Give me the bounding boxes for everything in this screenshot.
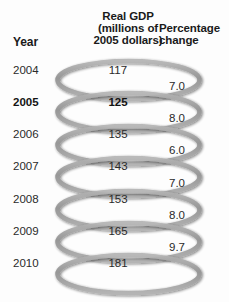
cell-percentage-change: 7.0	[155, 80, 199, 92]
cell-real-gdp: 125	[86, 96, 150, 108]
cell-real-gdp: 117	[86, 64, 150, 76]
cell-real-gdp: 165	[86, 225, 150, 237]
cell-year: 2007	[13, 160, 59, 172]
cell-percentage-change: 6.0	[155, 144, 199, 156]
cell-year: 2006	[13, 128, 59, 140]
cell-real-gdp: 181	[86, 257, 150, 269]
cell-percentage-change: 8.0	[155, 209, 199, 221]
cell-year: 2009	[13, 225, 59, 237]
cell-year: 2008	[13, 193, 59, 205]
cell-year: 2005	[13, 96, 59, 108]
cell-real-gdp: 143	[86, 160, 150, 172]
cell-percentage-change: 8.0	[155, 112, 199, 124]
cell-year: 2004	[13, 64, 59, 76]
cell-year: 2010	[13, 257, 59, 269]
data-rows: 20041177.020051258.020061356.020071437.0…	[0, 0, 229, 302]
cell-real-gdp: 153	[86, 193, 150, 205]
cell-real-gdp: 135	[86, 128, 150, 140]
cell-percentage-change: 7.0	[155, 177, 199, 189]
cell-percentage-change: 9.7	[155, 241, 199, 253]
gdp-percentage-change-figure: Year Real GDP (millions of 2005 dollars)…	[0, 0, 229, 302]
